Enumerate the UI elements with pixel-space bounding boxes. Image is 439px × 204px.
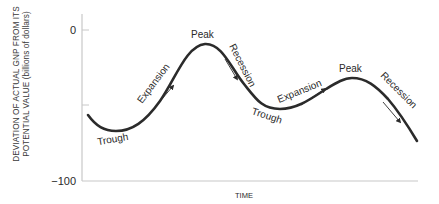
business-cycle-chart: 0 −100 TIME Trough Expansion Peak Recess… [0, 0, 439, 204]
label-trough-1: Trough [96, 131, 129, 147]
business-cycle-curve [88, 44, 417, 141]
x-axis-label: TIME [235, 191, 253, 200]
label-peak-1: Peak [191, 29, 215, 40]
axes [82, 14, 418, 181]
expansion-arrow-1 [156, 86, 173, 106]
y-tick-label-minus100: −100 [51, 175, 76, 187]
y-tick-label-0: 0 [70, 24, 76, 36]
label-peak-2: Peak [339, 63, 363, 74]
label-expansion-1: Expansion [135, 61, 172, 105]
label-expansion-2: Expansion [276, 77, 323, 105]
